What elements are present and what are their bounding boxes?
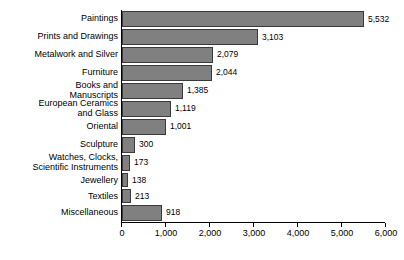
bar [122,189,131,203]
category-label: Paintings [81,10,118,28]
x-axis-tick-label: 5,000 [331,229,354,238]
category-label: Metalwork and Silver [34,46,118,64]
bar [122,11,364,27]
category-label-text: Miscellaneous [61,208,118,218]
bar-value-label: 2,079 [217,50,238,59]
x-axis-tick-label: 6,000 [375,229,398,238]
bar-value-label: 1,385 [187,86,208,95]
x-axis-tick [385,223,386,227]
bar [122,137,135,153]
category-label-text: Jewellery [80,176,118,186]
category-label: Furniture [82,64,118,82]
category-label-text: Paintings [81,14,118,24]
category-label: Prints and Drawings [37,28,118,46]
bar [122,155,130,171]
x-axis-tick [165,223,166,227]
x-axis-tick [121,223,122,227]
category-label: Books and Manuscripts [69,82,118,100]
category-label-text: Watches, Clocks, Scientific Instruments [32,153,118,172]
bar [122,101,171,117]
category-label: European Ceramics and Glass [38,100,118,118]
bar [122,47,213,63]
bar-value-label: 1,119 [175,104,196,113]
bar [122,205,162,221]
category-label-text: Textiles [88,192,118,202]
x-axis-tick [341,223,342,227]
x-axis-tick-label: 0 [119,229,124,238]
category-label-text: Sculpture [80,140,118,150]
category-label: Watches, Clocks, Scientific Instruments [32,154,118,172]
bar [122,65,212,81]
bar-value-label: 3,103 [262,33,283,42]
bar [122,29,258,45]
x-axis-tick [297,223,298,227]
x-axis-tick [209,223,210,227]
bar-value-label: 5,532 [368,15,389,24]
category-label: Miscellaneous [61,204,118,222]
bar-value-label: 138 [132,176,146,185]
bar-value-label: 2,044 [216,68,237,77]
category-label-text: Oriental [86,122,118,132]
bar [122,119,166,135]
x-axis-tick-label: 3,000 [243,229,266,238]
category-label-text: Metalwork and Silver [34,50,118,60]
bar-value-label: 1,001 [170,122,191,131]
bar-chart: Paintings Prints and Drawings Metalwork … [0,0,404,260]
bar-value-label: 213 [135,192,149,201]
y-axis-line [121,10,122,222]
bar-value-label: 173 [134,158,148,167]
category-label-text: Furniture [82,68,118,78]
category-label-text: Prints and Drawings [37,32,118,42]
bar [122,83,183,99]
x-axis-tick-label: 1,000 [155,229,178,238]
bar-value-label: 300 [139,140,153,149]
x-axis-tick-label: 4,000 [287,229,310,238]
category-label: Oriental [86,118,118,136]
bar [122,173,128,187]
x-axis-tick [253,223,254,227]
bar-value-label: 918 [166,208,180,217]
x-axis-tick-label: 2,000 [199,229,222,238]
category-label-text: European Ceramics and Glass [38,99,118,118]
category-label: Sculpture [80,136,118,154]
